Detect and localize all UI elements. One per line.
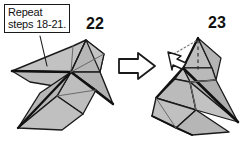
- origami-instruction-diagram: Repeat steps 18-21. 22 23: [0, 0, 241, 143]
- callout-line-2: steps 18-21.: [8, 18, 66, 30]
- callout-line-1: Repeat: [8, 6, 66, 18]
- callout-box: Repeat steps 18-21.: [4, 4, 70, 33]
- process-arrow: [119, 53, 155, 79]
- origami-figure-step-22: [12, 40, 113, 130]
- edge-heavy-horizontal: [12, 71, 71, 72]
- step-number-22: 22: [86, 15, 104, 33]
- fold-arrow: [168, 52, 186, 70]
- step-number-23: 23: [208, 14, 226, 32]
- origami-figure-step-23: [152, 38, 238, 135]
